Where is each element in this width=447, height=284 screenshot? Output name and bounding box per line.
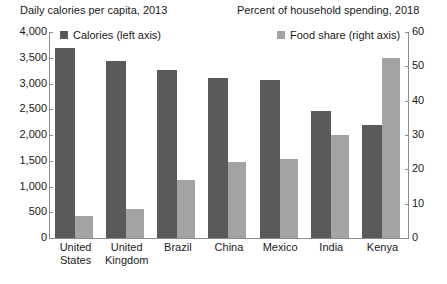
right-axis-tick-label: 60 [412,26,424,37]
bar-group [357,32,408,238]
left-axis-tick-label: 3,000 [19,78,47,89]
bar-group [306,32,357,238]
bar-calories [157,70,177,238]
left-axis-tick-label: 3,500 [19,52,47,63]
category-label: United Kingdom [101,241,152,267]
bar-group [50,32,101,238]
left-axis-tick-label: 1,500 [19,155,47,166]
left-axis-tick-label: 0 [41,232,47,243]
bar-calories [55,48,75,238]
left-axis-tick-label: 500 [29,206,47,217]
right-axis-tick [405,238,409,239]
bar-calories [362,125,382,238]
bar-calories [260,80,280,238]
bar-group [203,32,254,238]
category-label: United States [50,241,101,267]
bar-calories [311,111,331,238]
x-axis-baseline [49,238,409,239]
right-axis-tick-label: 20 [412,163,424,174]
bar-foodshare [331,135,349,238]
right-axis-tick-label: 40 [412,95,424,106]
left-axis-tick [49,238,53,239]
bar-group [255,32,306,238]
right-axis-tick-label: 10 [412,198,424,209]
left-axis-tick-label: 4,000 [19,26,47,37]
bar-foodshare [280,159,298,238]
bar-calories [208,78,228,238]
right-axis-tick-label: 0 [412,232,418,243]
right-axis-tick-label: 50 [412,60,424,71]
category-label: Kenya [357,241,408,254]
left-axis-tick-label: 2,500 [19,103,47,114]
left-axis-tick-label: 1,000 [19,181,47,192]
bar-foodshare [177,180,195,238]
bar-foodshare [382,58,400,238]
left-axis-title: Daily calories per capita, 2013 [20,4,167,16]
category-label: Mexico [255,241,306,254]
bar-foodshare [126,209,144,238]
right-axis-title: Percent of household spending, 2018 [237,4,419,16]
bar-group [152,32,203,238]
category-label: Brazil [152,241,203,254]
left-axis-tick-label: 2,000 [19,129,47,140]
bar-calories [106,61,126,238]
category-label: China [203,241,254,254]
bar-foodshare [228,162,246,238]
chart-container: Daily calories per capita, 2013 Percent … [0,0,447,284]
plot-area [50,32,408,238]
bar-foodshare [75,216,93,238]
bar-group [101,32,152,238]
right-axis-tick-label: 30 [412,129,424,140]
category-label: India [306,241,357,254]
